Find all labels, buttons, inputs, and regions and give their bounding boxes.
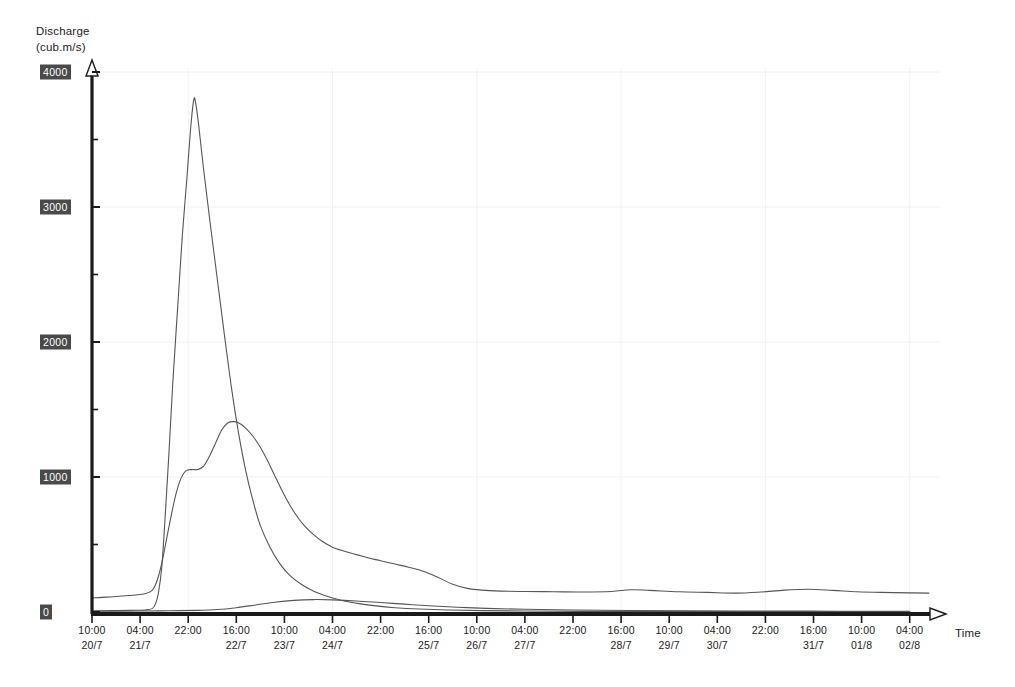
x-tick-time-label: 04:00	[896, 624, 923, 636]
x-tick-date-label: 24/7	[322, 639, 343, 651]
x-tick-date-label: 20/7	[81, 639, 102, 651]
series-peak-hydrograph	[92, 98, 910, 612]
y-axis-title: Discharge	[36, 24, 90, 39]
x-tick-time-label: 22:00	[559, 624, 586, 636]
x-tick-time-label: 22:00	[175, 624, 202, 636]
x-tick-date-label: 01/8	[851, 639, 872, 651]
y-tick-label: 1000	[40, 470, 71, 485]
x-tick-date-label: 02/8	[899, 639, 920, 651]
y-tick-label: 3000	[40, 200, 71, 215]
grid-lines	[92, 68, 940, 612]
x-tick-date-label: 29/7	[659, 639, 680, 651]
x-tick-time-label: 04:00	[126, 624, 153, 636]
x-tick-date-label: 21/7	[129, 639, 150, 651]
x-tick-time-label: 10:00	[271, 624, 298, 636]
y-tick-label: 4000	[40, 65, 71, 80]
x-tick-date-label: 28/7	[610, 639, 631, 651]
x-tick-time-label: 16:00	[415, 624, 442, 636]
x-tick-time-label: 22:00	[367, 624, 394, 636]
x-tick-date-label: 23/7	[274, 639, 295, 651]
x-tick-time-label: 04:00	[704, 624, 731, 636]
series-baseflow-bump	[92, 600, 910, 612]
x-tick-time-label: 10:00	[848, 624, 875, 636]
x-tick-time-label: 16:00	[223, 624, 250, 636]
x-tick-date-label: 25/7	[418, 639, 439, 651]
x-tick-date-label: 26/7	[466, 639, 487, 651]
series-broad-hydrograph	[92, 422, 929, 598]
x-tick-time-label: 10:00	[463, 624, 490, 636]
x-tick-time-label: 04:00	[319, 624, 346, 636]
x-tick-time-label: 10:00	[656, 624, 683, 636]
y-tick-label: 0	[40, 605, 52, 620]
discharge-hydrograph-chart: Discharge (cub.m/s) Time 010002000300040…	[0, 0, 1015, 687]
y-tick-label: 2000	[40, 335, 71, 350]
x-tick-time-label: 10:00	[78, 624, 105, 636]
plot-area	[0, 0, 1015, 687]
x-tick-time-label: 04:00	[511, 624, 538, 636]
series-lines	[92, 98, 929, 612]
axis-tick-marks	[92, 72, 910, 623]
x-tick-date-label: 31/7	[803, 639, 824, 651]
x-tick-date-label: 30/7	[707, 639, 728, 651]
x-tick-time-label: 16:00	[800, 624, 827, 636]
x-tick-time-label: 16:00	[607, 624, 634, 636]
y-axis-units: (cub.m/s)	[36, 40, 86, 55]
axis-lines	[86, 60, 946, 620]
x-tick-date-label: 27/7	[514, 639, 535, 651]
x-tick-time-label: 22:00	[752, 624, 779, 636]
x-axis-title: Time	[955, 626, 981, 641]
x-tick-date-label: 22/7	[226, 639, 247, 651]
